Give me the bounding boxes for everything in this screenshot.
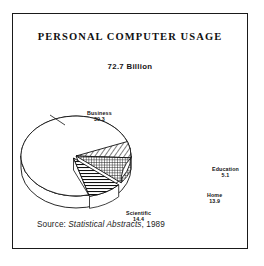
source-year: , 1989 [142,220,165,229]
pie-chart-svg [13,84,249,209]
chart-subtitle: 72.7 Billion [13,62,247,71]
pie-label-education: Education 5.1 [212,166,239,179]
source-note: Source: Statistical Abstracts, 1989 [37,220,165,229]
chart-title: PERSONAL COMPUTER USAGE [13,31,247,42]
pie-label-home-value: 13.9 [207,198,222,204]
pie-label-education-name: Education [212,166,239,172]
pie-label-business-name: Business [87,110,112,116]
pie-label-education-value: 5.1 [212,172,239,178]
source-title: Statistical Abstracts [68,220,141,229]
chart-figure-frame: PERSONAL COMPUTER USAGE 72.7 Billion [12,13,248,249]
pie-label-scientific-name: Scientific [126,210,151,216]
pie-label-business-value: 39.3 [87,116,112,122]
pie-label-home: Home 13.9 [207,192,222,205]
pie-label-home-name: Home [207,192,222,198]
source-prefix: Source: [37,220,66,229]
pie-label-business: Business 39.3 [87,110,112,123]
pie-chart-area [13,84,249,209]
